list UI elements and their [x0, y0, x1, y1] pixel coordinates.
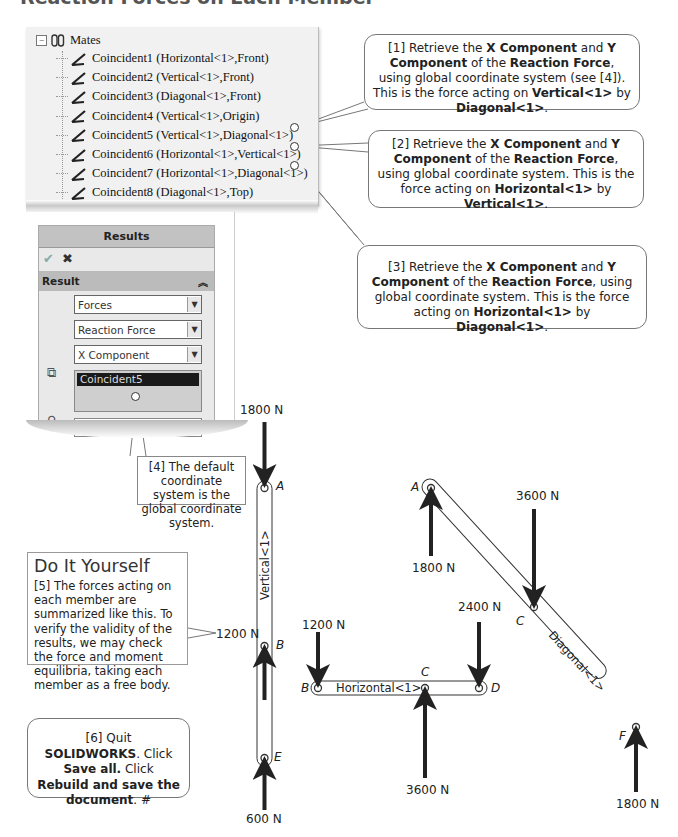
force-label-diagonal-f: 1800 N: [616, 797, 659, 811]
mate-item-label: Coincident8 (Diagonal<1>,Top): [92, 185, 253, 200]
double-chevron-up-icon[interactable]: ︽: [198, 274, 208, 289]
coincident-mate-icon: [70, 71, 88, 85]
mate-item-label: Coincident3 (Diagonal<1>,Front): [92, 89, 261, 104]
results-title: Results: [39, 226, 214, 248]
results-actions: ✔ ✖: [39, 248, 214, 268]
mate-item-coincident1[interactable]: Coincident1 (Horizontal<1>,Front): [36, 49, 308, 68]
member-label-vertical: Vertical<1>: [258, 530, 272, 600]
mate-item-label: Coincident1 (Horizontal<1>,Front): [92, 51, 269, 66]
chevron-down-icon[interactable]: ▼: [187, 347, 201, 362]
check-icon[interactable]: ✔: [43, 251, 54, 266]
chevron-down-icon[interactable]: ▼: [187, 297, 201, 312]
mates-folder[interactable]: − Mates: [36, 31, 308, 49]
mates-tree-panel: − Mates Coincident1 (Horizontal<1>,Front…: [26, 27, 319, 206]
result-section-header[interactable]: Result ︽: [39, 271, 214, 291]
callout-step-4: [4] The default coordinate system is the…: [137, 456, 246, 505]
coincident-mate-icon: [70, 186, 88, 200]
coincident-mate-icon: [70, 148, 88, 162]
force-label-horizontal-b: 1200 N: [302, 618, 345, 632]
point-label-e: E: [274, 750, 282, 764]
point-label-f: F: [619, 729, 626, 743]
mate-item-label: Coincident7 (Horizontal<1>,Diagonal<1>): [92, 166, 308, 181]
mate-item-label: Coincident2 (Vertical<1>,Front): [92, 70, 254, 85]
coincident-mate-icon: [70, 128, 88, 142]
paperclip-mates-icon: [51, 33, 65, 47]
mate-item-coincident3[interactable]: Coincident3 (Diagonal<1>,Front): [36, 87, 308, 106]
x-icon[interactable]: ✖: [62, 251, 73, 266]
force-label-horizontal-c: 3600 N: [406, 783, 449, 797]
mate-item-coincident4[interactable]: Coincident4 (Vertical<1>,Origin): [36, 107, 308, 126]
point-label-a-vertical: A: [276, 479, 284, 493]
mate-item-coincident6[interactable]: Coincident6 (Horizontal<1>,Vertical<1>): [36, 145, 308, 164]
do-it-yourself-title: Do It Yourself: [34, 556, 181, 576]
do-it-yourself-box: Do It Yourself [5] The forces acting on …: [27, 552, 188, 665]
callout-step-1: [1] Retrieve the X Component and Y Compo…: [364, 34, 640, 110]
force-label-vertical-b: 1200 N: [216, 627, 259, 641]
point-label-d: D: [491, 681, 500, 695]
selected-entity[interactable]: Coincident5: [77, 373, 199, 386]
page-heading: Reaction Forces on Each Member: [20, 0, 375, 7]
coincident-mate-icon: [70, 109, 88, 123]
result-type-dropdown[interactable]: Forces▼: [74, 295, 202, 314]
point-label-a-diagonal: A: [411, 480, 419, 494]
point-label-c-diagonal: C: [516, 614, 524, 628]
callout-anchor-1: [290, 123, 299, 132]
force-label-vertical-a: 1800 N: [240, 403, 283, 417]
point-label-c-horizontal: C: [421, 665, 429, 679]
chevron-down-icon[interactable]: ▼: [187, 322, 201, 337]
callout-anchor-4: [131, 392, 140, 401]
force-type-dropdown[interactable]: Reaction Force▼: [74, 320, 202, 339]
callout-anchor-2: [290, 142, 299, 151]
coincident-mate-icon: [70, 167, 88, 181]
entity-selection-icon: ⧉: [47, 365, 56, 381]
mate-item-label: Coincident4 (Vertical<1>,Origin): [92, 109, 260, 124]
force-label-diagonal-a: 1800 N: [412, 561, 455, 575]
coincident-mate-icon: [70, 90, 88, 104]
member-label-diagonal: Diagonal<1>: [546, 628, 609, 695]
force-label-diagonal-c: 3600 N: [516, 489, 559, 503]
force-label-horizontal-d: 2400 N: [458, 600, 501, 614]
callout-step-3: [3] Retrieve the X Component and Y Compo…: [357, 245, 647, 329]
do-it-yourself-text: [5] The forces acting on each member are…: [34, 579, 181, 693]
force-label-vertical-e: 600 N: [246, 812, 282, 826]
collapse-icon[interactable]: −: [36, 35, 47, 46]
callout-anchor-3: [290, 161, 299, 170]
results-property-manager: Results ✔ ✖ Result ︽ Forces▼ Reaction Fo…: [38, 225, 215, 421]
member-label-horizontal: Horizontal<1>: [336, 681, 421, 695]
callout-step-6: [6] Quit SOLIDWORKS. Click Save all. Cli…: [27, 718, 190, 798]
point-label-b-vertical: B: [276, 638, 284, 652]
mates-tree: − Mates Coincident1 (Horizontal<1>,Front…: [36, 31, 308, 203]
coincident-mate-icon: [70, 52, 88, 66]
callout-step-2: [2] Retrieve the X Component and Y Compo…: [368, 130, 644, 208]
mate-item-label: Coincident5 (Vertical<1>,Diagonal<1>): [92, 128, 293, 143]
selected-entities-list[interactable]: Coincident5: [74, 370, 202, 412]
mate-item-label: Coincident6 (Horizontal<1>,Vertical<1>): [92, 147, 301, 162]
result-section-label: Result: [42, 275, 80, 287]
point-label-b-horizontal: B: [301, 681, 309, 695]
mate-item-coincident7[interactable]: Coincident7 (Horizontal<1>,Diagonal<1>): [36, 164, 308, 183]
component-dropdown[interactable]: X Component▼: [74, 345, 202, 364]
mates-folder-label: Mates: [70, 33, 101, 48]
mate-item-coincident2[interactable]: Coincident2 (Vertical<1>,Front): [36, 68, 308, 87]
mate-item-coincident5[interactable]: Coincident5 (Vertical<1>,Diagonal<1>): [36, 126, 308, 145]
